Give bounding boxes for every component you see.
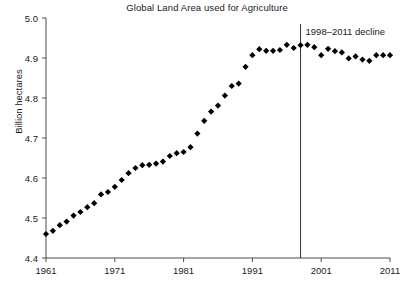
data-point — [105, 189, 111, 195]
y-tick-label: 5.0 — [25, 13, 38, 24]
data-point — [50, 228, 56, 234]
data-point — [194, 131, 200, 137]
data-point — [215, 103, 221, 109]
data-point — [98, 191, 104, 197]
data-point — [373, 52, 379, 58]
data-point — [236, 81, 242, 87]
x-tick-label: 2001 — [311, 265, 332, 276]
data-point — [132, 165, 138, 171]
x-tick-label: 1981 — [173, 265, 194, 276]
data-point — [181, 149, 187, 155]
data-point — [387, 52, 393, 58]
data-point — [353, 53, 359, 59]
data-point — [332, 48, 338, 54]
annotation-layer: 1998–2011 decline — [301, 24, 386, 258]
data-point — [43, 231, 49, 237]
data-point — [119, 177, 125, 183]
chart-figure: Global Land Area used for Agriculture Bi… — [0, 0, 414, 288]
data-point — [160, 159, 166, 165]
data-point — [304, 42, 310, 48]
data-point — [57, 222, 63, 228]
data-point — [325, 46, 331, 52]
data-point — [242, 64, 248, 70]
data-point — [112, 184, 118, 190]
data-point — [256, 46, 262, 52]
data-point — [187, 144, 193, 150]
data-point — [153, 161, 159, 167]
data-point — [125, 170, 131, 176]
data-point — [297, 42, 303, 48]
data-point — [291, 45, 297, 51]
data-point — [84, 204, 90, 210]
x-tick-label: 2011 — [380, 265, 400, 276]
data-point — [366, 58, 372, 64]
data-point — [201, 118, 207, 124]
data-point — [380, 52, 386, 58]
data-point — [146, 162, 152, 168]
data-point — [222, 93, 228, 99]
plot-area: 4.44.54.64.74.84.95.0 196119711981199120… — [0, 0, 414, 288]
x-tick-label: 1971 — [104, 265, 125, 276]
data-point — [263, 48, 269, 54]
y-tick-label: 4.6 — [25, 173, 38, 184]
data-point — [64, 219, 70, 225]
data-point — [311, 44, 317, 50]
x-tick-label: 1961 — [35, 265, 56, 276]
x-tick-label: 1991 — [242, 265, 263, 276]
data-point-series — [43, 42, 393, 237]
y-tick-label: 4.5 — [25, 213, 38, 224]
data-point — [229, 83, 235, 89]
data-point — [139, 162, 145, 168]
data-point — [277, 47, 283, 53]
data-point — [249, 52, 255, 58]
data-point — [174, 150, 180, 156]
data-point — [339, 49, 345, 55]
y-tick-label: 4.4 — [25, 253, 38, 264]
x-axis-ticks: 196119711981199120012011 — [35, 258, 400, 276]
data-point — [70, 213, 76, 219]
y-tick-label: 4.9 — [25, 53, 38, 64]
data-point — [346, 55, 352, 61]
data-point — [284, 42, 290, 48]
data-point — [318, 52, 324, 58]
data-point — [91, 200, 97, 206]
y-tick-label: 4.8 — [25, 93, 38, 104]
data-point — [208, 109, 214, 115]
data-point — [77, 209, 83, 215]
annotation-label: 1998–2011 decline — [306, 26, 386, 37]
data-point — [359, 57, 365, 63]
y-tick-label: 4.7 — [25, 133, 38, 144]
y-axis-ticks: 4.44.54.64.74.84.95.0 — [25, 13, 46, 264]
data-point — [270, 48, 276, 54]
data-point — [167, 153, 173, 159]
